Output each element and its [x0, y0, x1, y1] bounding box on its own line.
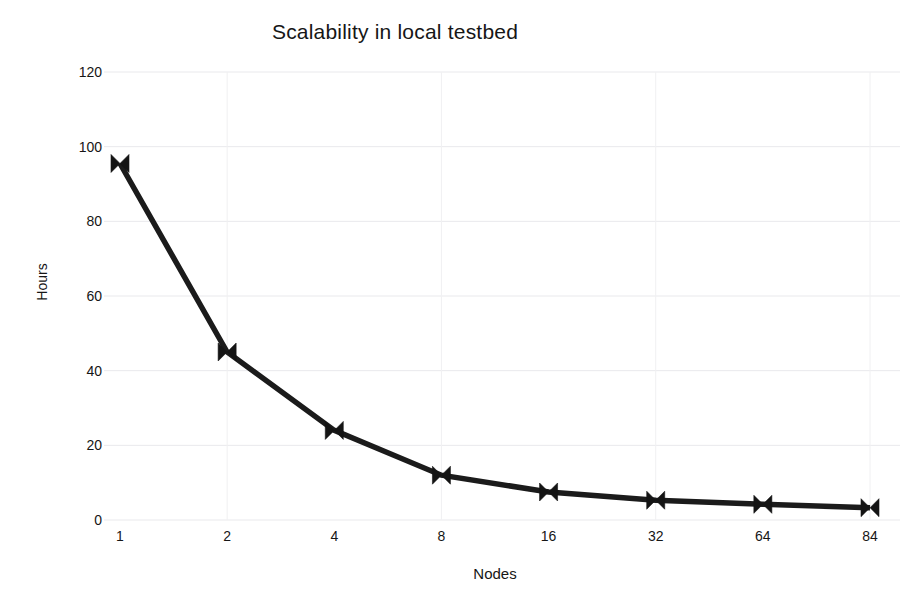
data-point-marker — [325, 421, 343, 439]
data-point-marker — [540, 483, 558, 501]
chart-container: Scalability in local testbed Hours 02040… — [0, 0, 924, 608]
horizontal-gridlines — [104, 72, 900, 520]
series-line-hours — [120, 164, 870, 508]
data-point-marker — [111, 154, 129, 172]
x-axis-title: Nodes — [0, 565, 924, 582]
plot-area — [0, 0, 924, 608]
data-point-marker — [754, 495, 772, 513]
series-markers — [111, 154, 879, 516]
